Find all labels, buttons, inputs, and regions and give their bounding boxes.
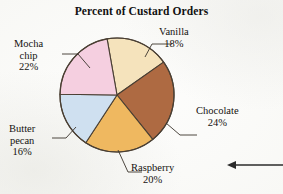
- slice-label-raspberry-percent: 20%: [131, 174, 174, 186]
- slice-label-mocha-chip-name-line1: Mocha: [14, 38, 43, 49]
- slice-label-butter-pecan: Butter pecan 16%: [9, 123, 35, 158]
- pie-chart-figure: Percent of Custard Orders Vanilla 18% Ch…: [0, 0, 283, 194]
- slice-label-mocha-chip: Mocha chip 22%: [14, 38, 43, 73]
- slice-label-vanilla-name: Vanilla: [159, 26, 189, 37]
- leader-line-chocolate: [166, 123, 197, 135]
- slice-label-butter-pecan-name-line1: Butter: [9, 123, 35, 134]
- slice-label-raspberry: Raspberry 20%: [131, 162, 174, 185]
- slice-label-chocolate-name: Chocolate: [196, 105, 239, 116]
- slice-label-vanilla-percent: 18%: [159, 38, 189, 50]
- slice-label-mocha-chip-percent: 22%: [14, 61, 43, 73]
- slice-label-vanilla: Vanilla 18%: [159, 26, 189, 49]
- slice-label-chocolate-percent: 24%: [196, 117, 239, 129]
- slice-label-chocolate: Chocolate 24%: [196, 105, 239, 128]
- slice-label-raspberry-name: Raspberry: [131, 162, 174, 173]
- arrow-left-icon: [227, 161, 283, 169]
- slice-label-mocha-chip-name-line2: chip: [14, 50, 43, 62]
- slice-label-butter-pecan-percent: 16%: [9, 146, 35, 158]
- slice-label-butter-pecan-name-line2: pecan: [9, 135, 35, 147]
